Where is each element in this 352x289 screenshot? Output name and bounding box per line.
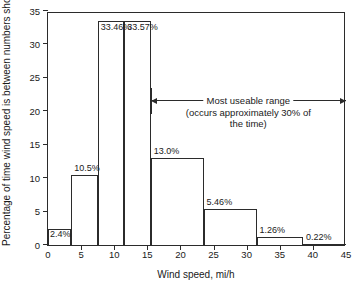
histogram-bar: [98, 21, 124, 245]
wind-speed-histogram: 05101520253035 051015202530354045 2.4%10…: [0, 0, 352, 289]
y-axis-tick: [43, 43, 48, 44]
y-axis-tick: [43, 77, 48, 78]
y-axis-tick-label: 30: [29, 40, 40, 50]
annotation-text-line1: Most useable range: [204, 95, 293, 106]
y-axis-title: Percentage of time wind speed is between…: [0, 12, 14, 246]
histogram-bar: [124, 21, 150, 245]
annotation-text-line3: the time): [227, 118, 270, 129]
x-axis-tick-label: 45: [341, 250, 352, 260]
y-axis-tick: [43, 10, 48, 11]
y-axis-tick: [43, 211, 48, 212]
bar-value-label: 10.5%: [74, 164, 100, 173]
y-axis-tick-label: 15: [29, 140, 40, 150]
y-axis-tick-label: 10: [29, 173, 40, 183]
x-axis-tick-label: 5: [78, 250, 83, 260]
bar-value-label: 13.0%: [154, 147, 180, 156]
x-axis-tick-label: 30: [241, 250, 252, 260]
bar-value-label: 2.4%: [50, 230, 71, 239]
y-axis-tick-label: 0: [35, 240, 40, 250]
x-axis-tick-label: 10: [109, 250, 120, 260]
bar-value-label: 0.22%: [306, 233, 332, 242]
x-axis-tick-label: 0: [45, 250, 50, 260]
y-axis-tick-label: 35: [29, 6, 40, 16]
y-axis-tick: [43, 110, 48, 111]
bar-value-label: 1.26%: [260, 226, 286, 235]
histogram-bar: [204, 209, 257, 246]
y-axis-tick: [43, 144, 48, 145]
histogram-bar: [303, 244, 346, 245]
annotation-arrow-left-icon: [151, 98, 157, 104]
histogram-bar: [257, 237, 303, 245]
x-axis-tick-label: 35: [274, 250, 285, 260]
x-axis-tick-label: 20: [175, 250, 186, 260]
bar-value-label: 33.57%: [127, 23, 158, 32]
plot-area: 05101520253035 051015202530354045 2.4%10…: [47, 12, 345, 246]
annotation-text-line2: (occurs approximately 30% of: [183, 107, 314, 118]
x-axis-tick-label: 15: [142, 250, 153, 260]
histogram-bar: [151, 158, 204, 245]
y-axis-tick-label: 20: [29, 107, 40, 117]
y-axis-tick: [43, 177, 48, 178]
x-axis-tick-label: 25: [208, 250, 219, 260]
x-axis-tick-label: 40: [308, 250, 319, 260]
y-axis-tick-label: 25: [29, 73, 40, 83]
histogram-bar: [71, 175, 97, 245]
annotation-arrow-right-icon: [340, 98, 346, 104]
x-axis-title: Wind speed, mi/h: [47, 270, 345, 280]
y-axis-tick-label: 5: [35, 207, 40, 217]
bar-value-label: 5.46%: [207, 198, 233, 207]
